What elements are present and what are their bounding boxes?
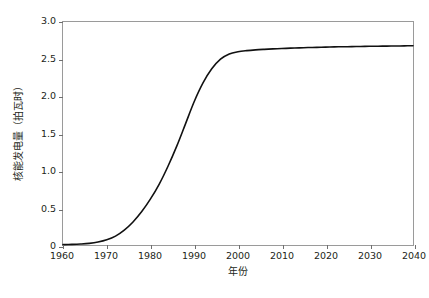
- y-tick-label: 2.0: [20, 91, 56, 101]
- chart-figure: 00.51.01.52.02.53.0 19601970198019902000…: [0, 0, 429, 298]
- x-tick-label: 2030: [348, 250, 392, 262]
- y-axis-title: 核能发电量（拍瓦时）: [13, 51, 25, 211]
- y-tick-label: 1.5: [20, 129, 56, 139]
- x-tick-label: 1980: [128, 250, 172, 262]
- y-tick-label: 1.0: [20, 166, 56, 176]
- x-tick-label: 2000: [216, 250, 260, 262]
- x-axis-tick-labels: 196019701980199020002010202020302040: [62, 250, 414, 264]
- x-tick-label: 2010: [260, 250, 304, 262]
- x-tick-label: 1990: [172, 250, 216, 262]
- y-axis-tick-labels: 00.51.01.52.02.53.0: [0, 21, 429, 246]
- x-axis-title: 年份: [62, 266, 414, 278]
- y-tick-label: 0.5: [20, 204, 56, 214]
- y-tick-label: 2.5: [20, 54, 56, 64]
- x-tick-label: 2040: [392, 250, 429, 262]
- x-tick-label: 2020: [304, 250, 348, 262]
- y-tick-label: 3.0: [20, 16, 56, 26]
- x-tick-label: 1960: [40, 250, 84, 262]
- x-tick-label: 1970: [84, 250, 128, 262]
